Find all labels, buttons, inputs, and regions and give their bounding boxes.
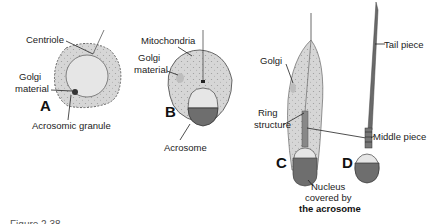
label-nucleus-1: Nucleus	[311, 181, 346, 192]
label-nucleus-3: the acrosome	[299, 203, 361, 214]
panel-letter-a: A	[40, 97, 51, 114]
label-tail-piece: Tail piece	[384, 39, 424, 50]
label-ring-2: structure	[254, 119, 291, 130]
panel-c-spermatid	[288, 13, 323, 186]
label-middle-piece: Middle piece	[373, 131, 426, 142]
label-centriole: Centriole	[26, 34, 64, 45]
label-acrosome: Acrosome	[164, 142, 207, 153]
panel-d-sperm	[355, 2, 379, 183]
panel-d-labels: Tail piece Middle piece D	[342, 39, 426, 171]
panel-letter-d: D	[342, 154, 353, 171]
label-golgi-c: Golgi	[260, 55, 282, 66]
label-golgi-a-1: Golgi	[19, 71, 41, 82]
panel-letter-c: C	[276, 154, 287, 171]
label-golgi-a-2: material	[15, 83, 49, 94]
label-mitochondria: Mitochondria	[141, 35, 196, 46]
label-golgi-b-1: Golgi	[138, 52, 160, 63]
spermiogenesis-diagram: Centriole Golgi material Acrosomic granu…	[0, 0, 441, 224]
figure-caption: Figure 2.38 ...	[10, 219, 72, 224]
panel-a-spermatid	[54, 30, 120, 108]
label-acrosomic-granule: Acrosomic granule	[32, 120, 111, 131]
label-nucleus-2: covered by	[305, 192, 352, 203]
panel-letter-b: B	[165, 103, 176, 120]
label-golgi-b-2: material	[134, 64, 168, 75]
label-ring-1: Ring	[258, 107, 278, 118]
